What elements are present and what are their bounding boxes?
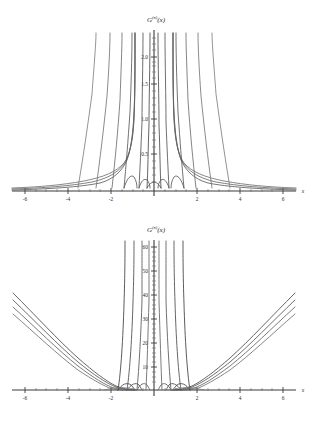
curve-bottom-outer-r3	[177, 307, 295, 390]
curve-top-3-left	[12, 33, 135, 190]
curve-top-2-trough-left	[139, 179, 150, 188]
curve-top-spike-r2	[198, 33, 212, 188]
curve-bottom-outer-r1	[172, 293, 295, 390]
curve-bottom-outer-l2	[13, 300, 134, 390]
x-tick-label-bottom-5: 6	[282, 395, 285, 401]
curve-top-mid-left-a	[124, 33, 132, 188]
curve-top-mid-right-a	[176, 33, 184, 188]
plot-svg-top: G(n)(x)	[0, 0, 312, 212]
curve-top-spike-r3	[212, 33, 230, 188]
curve-top-5-right	[173, 33, 296, 188]
curve-bottom-spike-r1	[183, 241, 190, 390]
curve-top-5-left	[12, 33, 135, 188]
y-tick-label-top-3: 2.0	[141, 54, 148, 60]
curve-bottom-outer-l3	[13, 307, 131, 390]
x-tick-label-top-3: 2	[196, 196, 199, 202]
curve-top-1-right	[158, 33, 161, 188]
y-tick-label-bottom-5: 60	[143, 244, 149, 250]
x-tick-label-top-5: 6	[282, 196, 285, 202]
curve-top-2-right	[165, 33, 169, 188]
plot-title-bottom: G(n)(x)	[147, 225, 166, 234]
curve-top-2-trough-right	[158, 179, 169, 188]
curve-bottom-spike-r3	[166, 241, 171, 390]
curve-bottom-spike-r2	[174, 241, 181, 390]
curve-top-spike-r1	[186, 33, 196, 188]
curve-bottom-outer-r4	[180, 314, 295, 390]
y-tick-label-bottom-2: 30	[143, 316, 149, 322]
curve-bottom-outer-l1	[13, 293, 136, 390]
x-tick-label-top-1: -4	[66, 196, 71, 202]
figure-container: G(n)(x)	[0, 0, 312, 423]
curve-top-spike-l2	[96, 33, 110, 188]
plot-panel-bottom: G(n)(x)	[0, 212, 312, 423]
y-tick-label-bottom-4: 50	[143, 268, 149, 274]
y-tick-label-bottom-0: 10	[143, 364, 149, 370]
curve-top-mid-trough-left	[124, 176, 137, 188]
curve-top-3-right	[173, 33, 296, 190]
x-tick-label-top-2: -2	[109, 196, 114, 202]
x-axis-label-bottom: x	[301, 387, 305, 393]
plot-title-top: G(n)(x)	[147, 15, 166, 24]
x-tick-label-bottom-1: -4	[66, 395, 71, 401]
plot-title-top-arg: (x)	[157, 16, 165, 24]
curve-bottom-spike-r4	[159, 241, 162, 390]
y-tick-label-top-0: 0.5	[141, 151, 148, 157]
y-tick-label-bottom-3: 40	[143, 292, 149, 298]
curve-top-spike-l3	[78, 33, 96, 188]
curve-top-4-right	[173, 33, 296, 189]
x-tick-label-top-0: -6	[23, 196, 28, 202]
curve-top-mid-trough-right	[171, 176, 184, 188]
x-tick-label-bottom-2: -2	[109, 395, 114, 401]
x-tick-label-bottom-0: -6	[23, 395, 28, 401]
curve-bottom-spike-l2	[127, 241, 134, 390]
curve-bottom-spike-l3	[137, 241, 142, 390]
curve-top-spike-l1	[112, 33, 122, 188]
curve-bottom-outer-r2	[174, 300, 295, 390]
plot-title-bottom-arg: (x)	[157, 226, 165, 234]
plot-svg-bottom: G(n)(x)	[0, 212, 312, 423]
curve-top-4-left	[12, 33, 135, 189]
x-tick-label-bottom-3: 2	[196, 395, 199, 401]
curve-bottom-spike-l1	[118, 241, 125, 390]
x-axis-label-top: x	[301, 188, 305, 194]
curve-bottom-outer-l4	[13, 314, 128, 390]
x-tick-label-bottom-4: 4	[239, 395, 242, 401]
plot-panel-top: G(n)(x)	[0, 0, 312, 212]
x-tick-label-top-4: 4	[239, 196, 242, 202]
